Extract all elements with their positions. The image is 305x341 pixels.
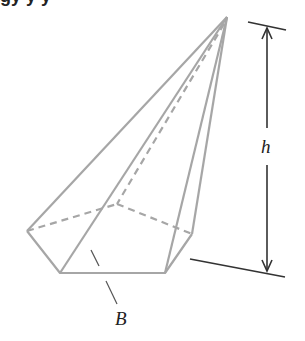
- lateral-edge-front-left: [60, 17, 227, 273]
- pyramid-diagram: [0, 0, 305, 341]
- height-label: h: [261, 136, 271, 158]
- base-pointer-tick: [91, 250, 99, 266]
- hidden-lateral-edge-back: [117, 24, 224, 204]
- pyramid-hidden-edges: [27, 24, 224, 234]
- pyramid-visible-edges: [27, 17, 227, 273]
- height-dimension: [190, 22, 286, 277]
- base-label: B: [115, 308, 127, 330]
- lateral-edge-front-right: [165, 17, 227, 273]
- base-leader-line: [106, 281, 117, 304]
